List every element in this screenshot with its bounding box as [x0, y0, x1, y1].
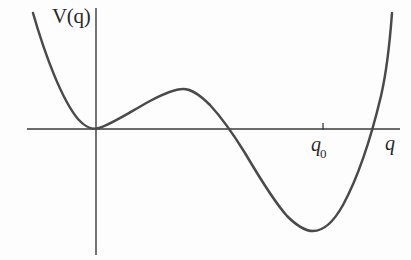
- x-tick-label-q0: q0: [311, 134, 328, 158]
- potential-curve: [33, 13, 392, 231]
- plot-canvas: [0, 0, 411, 260]
- potential-plot-figure: V(q) q0 q: [0, 0, 411, 260]
- x-axis-label: q: [385, 133, 395, 153]
- x-tick-label-q0-subscript: 0: [320, 146, 327, 161]
- y-axis-label: V(q): [52, 6, 90, 27]
